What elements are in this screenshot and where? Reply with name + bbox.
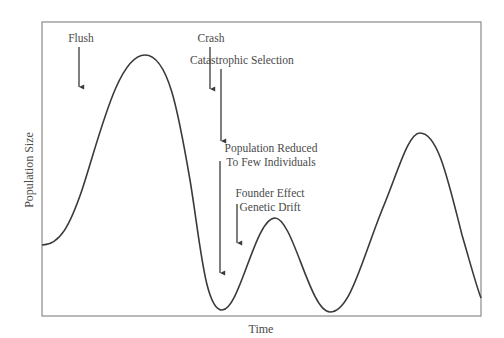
- y-axis-label: Population Size: [22, 132, 36, 208]
- catastrophic-selection-label: Catastrophic Selection: [190, 54, 294, 67]
- plot-frame: [42, 22, 481, 316]
- population-cycle-diagram: Flush Crash Catastrophic Selection Popul…: [0, 0, 504, 338]
- population-reduced-label-line2: To Few Individuals: [226, 156, 316, 168]
- founder-effect-label: Founder Effect: [235, 187, 305, 199]
- population-reduced-label-line1: Population Reduced: [225, 142, 318, 155]
- flush-label: Flush: [68, 32, 94, 44]
- x-axis-label: Time: [249, 322, 274, 336]
- genetic-drift-label: Genetic Drift: [240, 201, 302, 213]
- population-curve: [42, 55, 481, 312]
- crash-label: Crash: [198, 32, 225, 44]
